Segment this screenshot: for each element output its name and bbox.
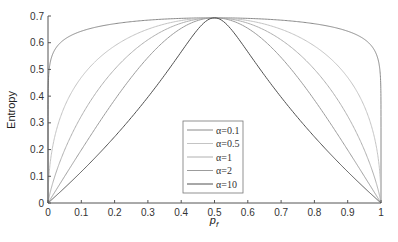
entropy-chart: 00.10.20.30.40.50.60.70.80.9100.10.20.30… <box>0 0 398 242</box>
x-tick-label: 0.9 <box>341 207 355 218</box>
x-tick-label: 0.7 <box>274 207 288 218</box>
x-tick-label: 0 <box>45 207 51 218</box>
legend: α=0.1α=0.5α=1α=2α=10 <box>183 121 243 193</box>
x-tick-label: 0.8 <box>307 207 321 218</box>
x-tick-label: 0.4 <box>174 207 188 218</box>
y-tick-label: 0.2 <box>30 144 44 155</box>
legend-label: α=0.5 <box>216 138 239 149</box>
x-tick-label: 1 <box>378 207 384 218</box>
y-tick-label: 0.4 <box>30 91 44 102</box>
x-tick-label: 0.1 <box>74 207 88 218</box>
legend-label: α=2 <box>216 165 232 176</box>
y-axis-label: Entropy <box>5 91 17 129</box>
y-tick-label: 0.6 <box>30 37 44 48</box>
legend-label: α=10 <box>216 179 237 190</box>
y-tick-label: 0.7 <box>30 11 44 22</box>
y-tick-label: 0.3 <box>30 117 44 128</box>
y-tick-label: 0.5 <box>30 64 44 75</box>
y-tick-label: 0.1 <box>30 171 44 182</box>
legend-label: α=0.1 <box>216 125 239 136</box>
x-tick-label: 0.6 <box>241 207 255 218</box>
y-tick-label: 0 <box>38 198 44 209</box>
x-tick-label: 0.3 <box>141 207 155 218</box>
legend-label: α=1 <box>216 152 232 163</box>
x-tick-label: 0.2 <box>108 207 122 218</box>
